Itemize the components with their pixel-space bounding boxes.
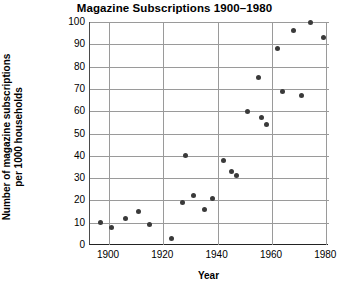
data-point xyxy=(109,225,114,230)
data-point xyxy=(291,28,296,33)
y-axis-tick-label: 20 xyxy=(45,195,85,205)
data-point xyxy=(308,20,313,25)
x-axis-tick-label: 1980 xyxy=(295,249,349,260)
data-point xyxy=(245,109,250,114)
gridline-horizontal xyxy=(90,200,329,201)
data-point xyxy=(210,196,215,201)
data-point xyxy=(147,222,152,227)
gridline-vertical xyxy=(326,22,327,245)
x-axis-tick-label: 1920 xyxy=(132,249,192,260)
y-axis-title-container: Number of magazine subscriptions per 100… xyxy=(0,0,40,293)
data-point xyxy=(180,200,185,205)
data-point xyxy=(191,193,196,198)
data-point xyxy=(98,220,103,225)
x-axis-title: Year xyxy=(89,270,328,281)
y-axis-title: Number of magazine subscriptions per 100… xyxy=(1,32,25,242)
chart-figure: Magazine Subscriptions 1900–1980 Number … xyxy=(0,0,349,293)
data-point xyxy=(123,216,128,221)
gridline-horizontal xyxy=(90,44,329,45)
gridline-horizontal xyxy=(90,67,329,68)
data-point xyxy=(264,122,269,127)
y-axis-tick-label: 40 xyxy=(45,151,85,161)
y-axis-title-line1: Number of magazine subscriptions xyxy=(1,54,12,221)
y-axis-tick-label: 90 xyxy=(45,39,85,49)
gridline-vertical xyxy=(218,22,219,245)
data-point xyxy=(221,158,226,163)
gridline-vertical xyxy=(272,22,273,245)
gridline-horizontal xyxy=(90,178,329,179)
gridline-vertical xyxy=(163,22,164,245)
y-axis-tick-label: 60 xyxy=(45,106,85,116)
gridline-vertical xyxy=(109,22,110,245)
plot-area xyxy=(89,22,328,245)
data-point xyxy=(136,209,141,214)
y-axis-tick-label: 10 xyxy=(45,218,85,228)
data-point xyxy=(275,46,280,51)
y-axis-tick-label: 70 xyxy=(45,84,85,94)
data-point xyxy=(259,115,264,120)
x-axis-tick-label: 1960 xyxy=(241,249,301,260)
data-point xyxy=(202,207,207,212)
gridline-horizontal xyxy=(90,134,329,135)
x-axis-tick-label: 1940 xyxy=(187,249,247,260)
y-axis-title-line2: per 1000 households xyxy=(13,87,24,186)
gridline-horizontal xyxy=(90,89,329,90)
gridline-horizontal xyxy=(90,223,329,224)
y-axis-tick-label: 30 xyxy=(45,173,85,183)
y-axis-tick-label: 80 xyxy=(45,62,85,72)
gridline-horizontal xyxy=(90,111,329,112)
y-axis-tick-label: 50 xyxy=(45,129,85,139)
gridline-horizontal xyxy=(90,22,329,23)
x-axis-tick-label: 1900 xyxy=(78,249,138,260)
y-axis-tick-label: 100 xyxy=(45,17,85,27)
data-point xyxy=(229,169,234,174)
data-point xyxy=(280,89,285,94)
data-point xyxy=(183,153,188,158)
data-point xyxy=(299,93,304,98)
gridline-horizontal xyxy=(90,156,329,157)
data-point xyxy=(169,236,174,241)
data-point xyxy=(256,75,261,80)
